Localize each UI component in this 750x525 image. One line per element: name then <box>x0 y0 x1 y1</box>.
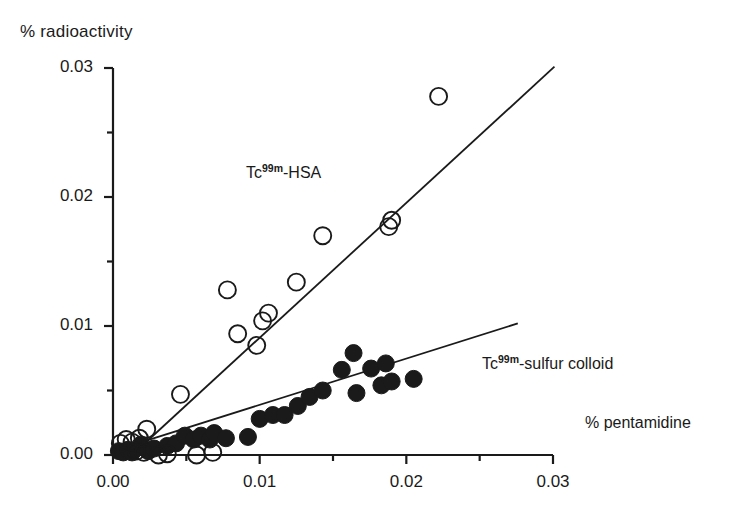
series-label-sulfur-prefix: Tc <box>482 355 498 372</box>
trendline-group <box>113 67 554 455</box>
data-point-sulfur-colloid <box>377 355 394 372</box>
x-tick-label: 0.01 <box>229 472 291 492</box>
data-point-hsa <box>229 325 246 342</box>
data-point-sulfur-colloid <box>217 430 234 447</box>
data-point-sulfur-colloid <box>314 382 331 399</box>
data-point-hsa <box>314 227 331 244</box>
y-tick-label: 0.03 <box>31 57 93 77</box>
x-tick-label: 0.03 <box>522 472 584 492</box>
data-point-sulfur-colloid <box>405 370 422 387</box>
y-axis-title: % radioactivity <box>20 22 133 42</box>
series-points-hsa <box>112 88 447 464</box>
series-label-sulfur-superscript: 99m <box>498 353 519 365</box>
data-point-sulfur-colloid <box>345 345 362 362</box>
data-point-sulfur-colloid <box>348 385 365 402</box>
data-point-hsa <box>288 274 305 291</box>
scatter-plot-canvas <box>0 0 750 525</box>
chart-figure: % radioactivity % pentamidine 0.000.010.… <box>0 0 750 525</box>
x-axis-title: % pentamidine <box>585 414 691 432</box>
x-tick-label: 0.00 <box>82 472 144 492</box>
data-point-hsa <box>219 281 236 298</box>
series-label-sulfur-colloid: Tc99m-sulfur colloid <box>482 355 613 373</box>
data-point-sulfur-colloid <box>239 428 256 445</box>
y-tick-label: 0.01 <box>31 315 93 335</box>
series-label-hsa: Tc99m-HSA <box>246 164 321 182</box>
data-point-sulfur-colloid <box>333 361 350 378</box>
y-tick-label: 0.00 <box>31 444 93 464</box>
x-tick-label: 0.02 <box>375 472 437 492</box>
data-point-hsa <box>383 212 400 229</box>
series-label-sulfur-suffix: -sulfur colloid <box>519 355 613 372</box>
series-label-hsa-prefix: Tc <box>246 164 262 181</box>
data-point-sulfur-colloid <box>383 373 400 390</box>
y-tick-label: 0.02 <box>31 186 93 206</box>
data-point-hsa <box>172 386 189 403</box>
series-label-hsa-superscript: 99m <box>262 162 283 174</box>
trendline-hsa <box>132 67 554 455</box>
data-point-hsa <box>430 88 447 105</box>
axis-group <box>104 68 553 464</box>
series-label-hsa-suffix: -HSA <box>283 164 321 181</box>
